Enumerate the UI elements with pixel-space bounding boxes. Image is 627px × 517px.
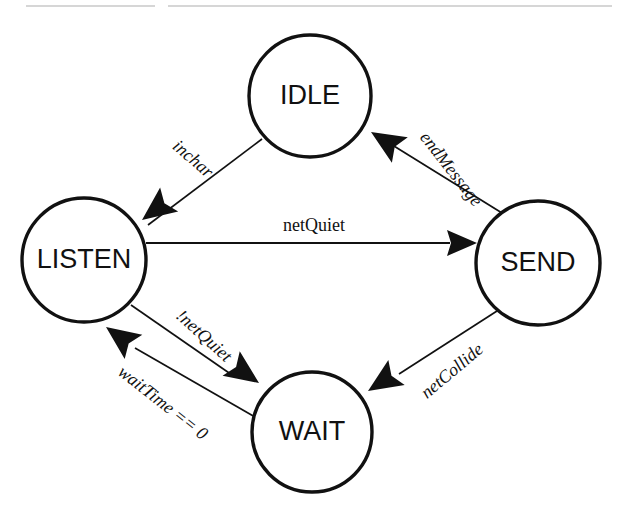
transition-label-listen-to-send: netQuiet xyxy=(283,215,345,235)
arrow-head-send-to-idle xyxy=(363,119,408,162)
state-label-listen: LISTEN xyxy=(37,244,132,274)
state-label-idle: IDLE xyxy=(280,80,340,110)
state-diagram-svg: IDLELISTENSENDWAIT incharendMessagenetQu… xyxy=(0,0,627,517)
state-label-wait: WAIT xyxy=(279,416,346,446)
transition-label-idle-to-listen: inchar xyxy=(169,136,218,183)
state-node-idle[interactable]: IDLE xyxy=(249,35,371,157)
state-diagram-canvas: IDLELISTENSENDWAIT incharendMessagenetQu… xyxy=(0,0,627,517)
transition-label-send-to-idle: endMessage xyxy=(416,128,487,210)
state-node-wait[interactable]: WAIT xyxy=(252,372,372,492)
state-node-listen[interactable]: LISTEN xyxy=(22,198,146,322)
state-node-send[interactable]: SEND xyxy=(476,201,600,325)
arrow-head-send-to-wait xyxy=(360,360,405,404)
state-label-send: SEND xyxy=(500,247,575,277)
transition-label-wait-to-listen: waitTime == 0 xyxy=(114,361,212,443)
transition-label-listen-to-wait: !netQuiet xyxy=(172,305,237,366)
arrow-head-idle-to-listen xyxy=(133,188,178,232)
transition-label-send-to-wait: netCollide xyxy=(417,339,487,403)
arrow-head-wait-to-listen xyxy=(97,315,142,359)
arrow-head-listen-to-send xyxy=(447,230,477,256)
states-group: IDLELISTENSENDWAIT xyxy=(22,35,600,492)
